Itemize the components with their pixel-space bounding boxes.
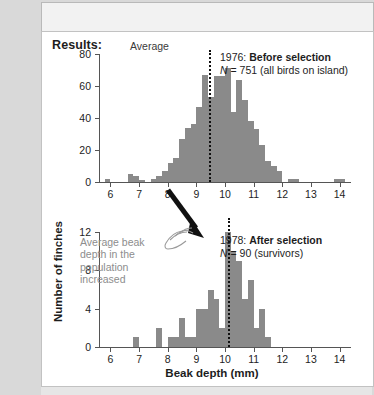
x-axis-tick	[139, 348, 140, 352]
caption-n-symbol-before: N	[220, 64, 228, 76]
x-axis-tick-label: 10	[215, 353, 235, 365]
x-axis-tick	[340, 348, 341, 352]
caption-emph-before: Before selection	[249, 51, 331, 63]
y-axis-tick	[95, 118, 99, 119]
caption-n-rest-before: = 751 (all birds on island)	[228, 64, 349, 76]
x-axis-tick-label: 14	[330, 353, 350, 365]
x-axis-tick-label: 14	[330, 188, 350, 200]
x-axis-tick-label: 6	[100, 353, 120, 365]
x-axis-tick	[340, 183, 341, 187]
x-axis-tick	[110, 348, 111, 352]
x-axis-tick-label: 8	[158, 353, 178, 365]
x-axis-tick-label: 6	[100, 188, 120, 200]
y-axis-tick	[95, 182, 99, 183]
histogram-bar	[277, 171, 283, 182]
y-axis-line	[99, 54, 100, 182]
y-axis-tick	[95, 347, 99, 348]
y-axis-tick	[95, 150, 99, 151]
average-label-before: Average	[130, 40, 169, 52]
x-axis-tick-label: 7	[129, 188, 149, 200]
x-axis-tick	[311, 183, 312, 187]
selection-arrow-group	[162, 190, 272, 252]
average-line	[209, 50, 211, 182]
y-axis-tick-label: 60	[69, 80, 91, 92]
histogram-bar	[265, 337, 271, 347]
page-bottom-strip	[41, 386, 372, 395]
y-axis-tick	[95, 86, 99, 87]
average-increase-note: Average beak depth in the population inc…	[80, 236, 158, 286]
x-axis-tick	[282, 183, 283, 187]
x-axis-tick-label: 11	[244, 353, 264, 365]
x-axis-tick-label: 13	[301, 188, 321, 200]
x-axis-tick	[168, 183, 169, 187]
x-axis-tick-label: 12	[272, 188, 292, 200]
y-axis-tick-label: 0	[69, 341, 91, 353]
y-axis-tick-label: 0	[69, 176, 91, 188]
y-axis-tick-label: 40	[69, 112, 91, 124]
x-axis-tick	[139, 183, 140, 187]
page-top-strip	[41, 2, 374, 31]
x-axis-tick	[168, 348, 169, 352]
y-axis-tick-label: 20	[69, 144, 91, 156]
x-axis-tick	[282, 348, 283, 352]
y-axis-tick	[95, 309, 99, 310]
x-axis-tick	[254, 348, 255, 352]
x-axis-tick	[110, 183, 111, 187]
x-axis-tick-label: 7	[129, 353, 149, 365]
x-axis-tick	[225, 183, 226, 187]
x-axis-tick	[196, 348, 197, 352]
chart-caption-before: 1976: Before selection N = 751 (all bird…	[220, 51, 348, 76]
caption-year-before: 1976:	[220, 51, 246, 63]
x-axis-tick	[254, 183, 255, 187]
x-axis-tick-label: 9	[186, 353, 206, 365]
x-axis-title: Beak depth (mm)	[102, 367, 322, 379]
y-axis-tick	[95, 54, 99, 55]
y-axis-tick-label: 4	[69, 303, 91, 315]
results-panel: Results: Number of finches 6789101112131…	[41, 31, 374, 387]
y-axis-tick	[95, 232, 99, 233]
chart-before-selection: 67891011121314020406080 Average 1976: Be…	[42, 32, 373, 202]
x-axis-tick	[196, 183, 197, 187]
x-axis-tick	[311, 348, 312, 352]
x-axis-tick-label: 13	[301, 353, 321, 365]
x-axis-tick-label: 12	[272, 353, 292, 365]
pointing-hand-icon	[165, 228, 193, 249]
histogram-bar	[156, 328, 162, 347]
y-axis-tick-label: 80	[69, 48, 91, 60]
histogram-bar	[133, 337, 139, 347]
x-axis-tick	[225, 348, 226, 352]
